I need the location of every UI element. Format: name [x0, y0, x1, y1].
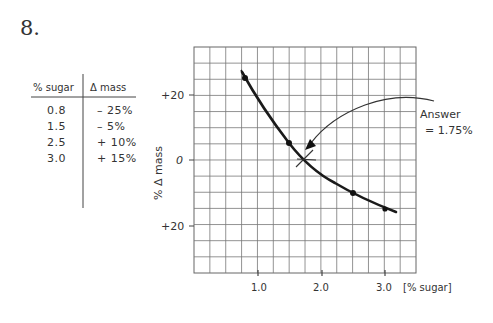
y-tick-label: +20 — [161, 220, 184, 233]
arrowhead-icon — [305, 139, 316, 150]
x-axis-label: [% sugar] — [403, 282, 452, 293]
annotation-value: = 1.75% — [425, 124, 473, 137]
x-tick-label: 1.0 — [251, 282, 267, 293]
y-tick-label: 0 — [176, 154, 183, 167]
x-tick-label: 3.0 — [376, 282, 392, 293]
y-tick-label: +20 — [161, 89, 184, 102]
annotation-answer: Answer — [420, 108, 461, 121]
data-curve — [242, 72, 396, 212]
answer-x-marker — [296, 150, 316, 167]
y-ticks — [189, 95, 194, 226]
graph: +20 0 +20 1.0 2.0 3.0 % Δ mass [% sugar]… — [0, 0, 493, 323]
x-tick-label: 2.0 — [313, 282, 329, 293]
y-axis-label: % Δ mass — [152, 146, 165, 200]
